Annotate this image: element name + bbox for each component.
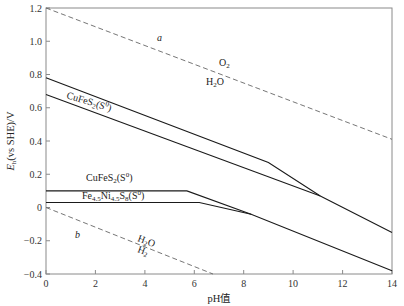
x-axis-ticks	[46, 270, 392, 274]
label-cufes2-region: CuFeS2(S0)	[86, 171, 132, 185]
h2o-rest: O	[217, 76, 224, 87]
x-axis-title: pH值	[208, 292, 232, 304]
label-o2: O2	[219, 57, 230, 70]
y-tick-label: 0.2	[30, 169, 43, 180]
cufes2-main: CuFeS	[86, 172, 113, 183]
label-h2o-a: H2O	[206, 76, 224, 89]
x-axis-tick-labels: 0 2 4 6 8 10 12 14	[44, 278, 398, 289]
line-a-o2-h2o	[46, 8, 392, 139]
h2o-main: H	[206, 76, 213, 87]
y-tick-label: 0	[37, 202, 42, 213]
cufes2-main: CuFeS	[65, 89, 94, 107]
x-tick-label: 0	[44, 278, 49, 289]
line-b-h2o-h2	[46, 208, 213, 275]
x-tick-label: 10	[288, 278, 298, 289]
x-tick-label: 14	[387, 278, 397, 289]
cufes2-end: )	[129, 172, 132, 184]
pourbaix-chart: 1.2 1.0 0.8 0.6 0.4 0.2 0 −0.2 −0.4 0 2 …	[0, 0, 404, 306]
line-fe-ni-lower	[46, 203, 392, 271]
x-tick-label: 4	[142, 278, 147, 289]
label-cufes2-rotated: CuFeS2(S0)	[65, 88, 114, 115]
h2o-rest: O	[146, 236, 157, 249]
ni-main: Ni	[101, 190, 111, 201]
y-axis-tick-labels: 1.2 1.0 0.8 0.6 0.4 0.2 0 −0.2 −0.4	[24, 3, 42, 280]
x-tick-label: 8	[241, 278, 246, 289]
y-tick-label: 1.0	[30, 36, 43, 47]
x-tick-label: 6	[192, 278, 197, 289]
fe-rest: (S	[129, 190, 138, 202]
y-tick-label: 0.4	[30, 136, 43, 147]
y-tick-label: 0.6	[30, 102, 43, 113]
fe-end: )	[141, 190, 144, 202]
y-tick-label: 1.2	[30, 3, 43, 14]
o2-sub: 2	[226, 62, 230, 70]
y-title-rest: (vs SHE)/V	[5, 111, 17, 161]
y-axis-title: Eh(vs SHE)/V	[5, 111, 18, 172]
y-tick-label: −0.4	[24, 269, 42, 280]
label-b: b	[75, 229, 80, 240]
fe-main: Fe	[82, 190, 93, 201]
y-tick-label: 0.8	[30, 69, 43, 80]
label-a: a	[157, 32, 162, 43]
y-axis-ticks	[46, 8, 50, 274]
cufes2-rest: (S	[117, 172, 126, 184]
plot-frame	[46, 8, 392, 274]
o2-main: O	[219, 57, 226, 68]
x-tick-label: 2	[93, 278, 98, 289]
x-tick-label: 12	[338, 278, 348, 289]
y-tick-label: −0.2	[24, 235, 42, 246]
